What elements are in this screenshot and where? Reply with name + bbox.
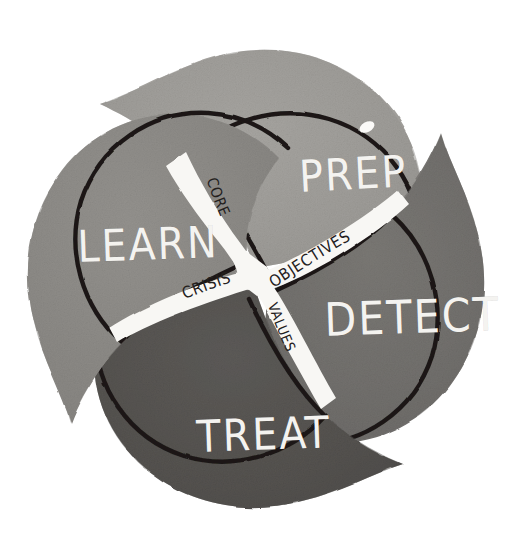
crisis-cycle-diagram: PREP DETECT TREAT LEARN CORE OBJECTIVES … — [0, 0, 530, 555]
quadrant-label-detect: DETECT — [323, 287, 500, 347]
quadrant-label-prep: PREP — [298, 145, 409, 202]
pinwheel-illustration: PREP DETECT TREAT LEARN CORE OBJECTIVES … — [0, 0, 530, 555]
quadrant-label-treat: TREAT — [195, 406, 332, 462]
quadrant-label-learn: LEARN — [77, 216, 220, 272]
